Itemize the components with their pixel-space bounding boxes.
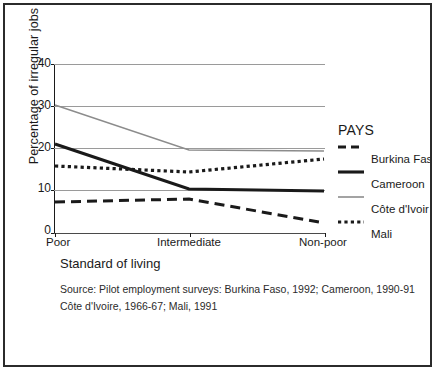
- y-tick-label-20: 20: [25, 141, 51, 153]
- series-line-mali: [55, 159, 324, 172]
- y-tick-label-30: 30: [25, 99, 51, 111]
- legend-item-cote-divoire[interactable]: Côte d'Ivoir: [338, 192, 432, 217]
- legend-label-burkina-faso: Burkina Fas: [371, 154, 432, 166]
- y-tick-label-10: 10: [25, 182, 51, 194]
- y-tick-label-0: 0: [25, 224, 51, 236]
- legend-label-cameroon: Cameroon: [371, 179, 425, 191]
- legend-label-cote-divoire: Côte d'Ivoir: [371, 204, 429, 216]
- dashed-line-swatch: [338, 142, 364, 152]
- caption-block: Standard of living Source: Pilot employm…: [60, 257, 432, 315]
- x-tick-label-intermediate: Intermediate: [157, 237, 221, 249]
- series-line-cote-divoire: [55, 105, 324, 151]
- series-line-burkina-faso: [55, 199, 324, 223]
- thin-gray-line-swatch: [338, 192, 364, 202]
- legend-item-cameroon[interactable]: Cameroon: [338, 167, 432, 192]
- thick-solid-line-swatch: [338, 167, 364, 177]
- x-tick-label-poor: Poor: [46, 237, 70, 249]
- legend-label-mali: Mali: [371, 229, 392, 241]
- y-axis-tick-labels: 40 30 20 10 0: [23, 5, 51, 367]
- chart-plot-svg: [54, 64, 325, 234]
- y-tick-label-40: 40: [25, 57, 51, 69]
- dotted-line-swatch: [338, 217, 364, 227]
- plot-area: [54, 64, 325, 233]
- figure-frame: Percentage of irregular jobs 40 30 20 10…: [3, 3, 432, 367]
- x-axis-title: Standard of living: [60, 257, 432, 270]
- legend-item-burkina-faso[interactable]: Burkina Fas: [338, 142, 432, 167]
- source-line-2: Côte d'Ivoire, 1966-67; Mali, 1991: [60, 298, 432, 315]
- legend-title: PAYS: [338, 123, 432, 137]
- source-line-1: Source: Pilot employment surveys: Burkin…: [60, 281, 432, 298]
- legend-item-mali[interactable]: Mali: [338, 217, 432, 242]
- chart-legend: PAYS Burkina Fas Cameroon Côte d'Ivoir M…: [338, 123, 432, 242]
